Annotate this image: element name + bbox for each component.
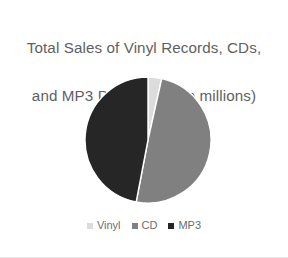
- pie-slice-group: [85, 77, 211, 203]
- pie-chart-graphic: [84, 76, 212, 204]
- legend-item-mp3[interactable]: MP3: [168, 219, 201, 232]
- legend-label-cd: CD: [142, 219, 158, 232]
- chart-title-line-1: Total Sales of Vinyl Records, CDs,: [27, 39, 261, 56]
- legend-swatch-cd-icon: [132, 223, 138, 229]
- legend-item-vinyl[interactable]: Vinyl: [87, 219, 121, 232]
- legend-item-cd[interactable]: CD: [132, 219, 158, 232]
- legend-label-mp3: MP3: [178, 219, 201, 232]
- legend-swatch-vinyl-icon: [87, 223, 93, 229]
- pie-chart-card: Total Sales of Vinyl Records, CDs, and M…: [0, 0, 288, 258]
- legend-swatch-mp3-icon: [168, 223, 174, 229]
- legend-label-vinyl: Vinyl: [97, 219, 121, 232]
- chart-legend: VinylCDMP3: [0, 219, 288, 232]
- pie-plot-area: [84, 76, 212, 204]
- pie-slice-mp3[interactable]: [85, 77, 148, 202]
